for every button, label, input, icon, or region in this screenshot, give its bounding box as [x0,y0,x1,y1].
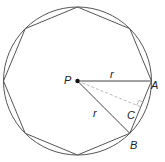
label-a: A [150,79,158,91]
label-b: B [130,139,137,151]
radius-pb [78,81,130,133]
label-r-top: r [110,68,115,80]
center-point [75,79,79,83]
apothem-pc [78,81,142,107]
octagon-diagram: P A B C r r [0,0,165,162]
label-p: P [64,74,72,86]
label-c: C [127,109,135,121]
label-r-lower: r [93,107,98,119]
